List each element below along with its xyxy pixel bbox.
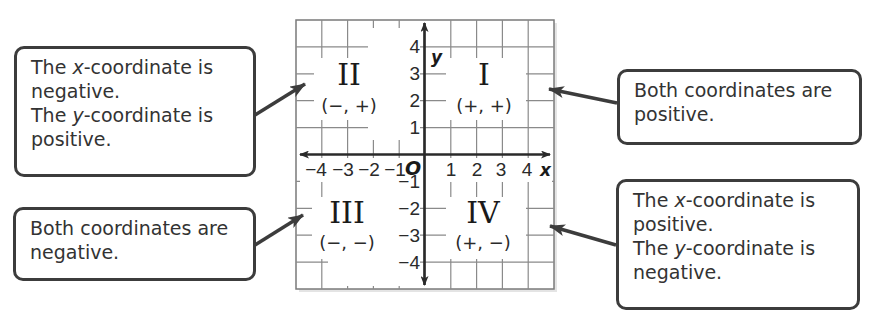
x-tick-3: 3 bbox=[496, 159, 507, 180]
y-tick-4: 4 bbox=[409, 36, 420, 57]
x-tick-4: 4 bbox=[522, 159, 533, 180]
x-tick-neg4: −4 bbox=[305, 159, 327, 180]
y-tick-neg3: −3 bbox=[398, 225, 420, 246]
callout-quadrant-i: Both coordinates are positive. bbox=[617, 69, 862, 145]
x-tick-1: 1 bbox=[446, 159, 457, 180]
y-tick-neg2: −2 bbox=[398, 198, 420, 219]
callout-i-line1: Both coordinates are bbox=[634, 78, 849, 102]
callout-iv-line1: The x-coordinate is bbox=[633, 188, 847, 212]
callout-ii-line3: The y-coordinate is bbox=[31, 103, 243, 127]
callout-ii-line1: The x-coordinate is bbox=[31, 55, 243, 79]
callout-iv-line3: The y-coordinate is bbox=[633, 236, 847, 260]
x-axis-label: x bbox=[539, 160, 552, 180]
x-tick-neg2: −2 bbox=[358, 159, 380, 180]
arrow-quadrant-iv bbox=[550, 226, 616, 245]
y-tick-2: 2 bbox=[409, 90, 420, 111]
x-tick-2: 2 bbox=[472, 159, 483, 180]
quadrant-iv-signs: (+, −) bbox=[455, 232, 511, 253]
quadrant-iv-numeral: IV bbox=[466, 195, 501, 230]
y-tick-3: 3 bbox=[409, 63, 420, 84]
callout-ii-line4: positive. bbox=[31, 127, 243, 151]
callout-quadrant-iv: The x-coordinate is positive. The y-coor… bbox=[616, 179, 860, 310]
quadrant-ii-numeral: II bbox=[337, 57, 361, 92]
quadrant-iii-signs: (−, −) bbox=[319, 232, 375, 253]
origin-label: O bbox=[405, 157, 421, 179]
callout-iv-line2: positive. bbox=[633, 212, 847, 236]
y-tick-neg4: −4 bbox=[398, 252, 420, 273]
y-tick-1: 1 bbox=[409, 117, 420, 138]
y-axis-label: y bbox=[431, 47, 443, 67]
callout-iii-line2: negative. bbox=[30, 240, 243, 264]
quadrant-i-numeral: I bbox=[478, 57, 490, 92]
callout-ii-line2: negative. bbox=[31, 79, 243, 103]
quadrant-i-signs: (+, +) bbox=[456, 95, 512, 116]
arrow-quadrant-i bbox=[549, 89, 617, 103]
callout-quadrant-ii: The x-coordinate is negative. The y-coor… bbox=[14, 46, 256, 177]
callout-i-line2: positive. bbox=[634, 102, 849, 126]
callout-iii-line1: Both coordinates are bbox=[30, 216, 243, 240]
quadrant-ii-signs: (−, +) bbox=[321, 95, 377, 116]
quadrant-iii-numeral: III bbox=[329, 195, 365, 230]
x-tick-neg1: −1 bbox=[384, 159, 406, 180]
x-tick-neg3: −3 bbox=[332, 159, 354, 180]
callout-iv-line4: negative. bbox=[633, 260, 847, 284]
callout-quadrant-iii: Both coordinates are negative. bbox=[13, 207, 256, 281]
